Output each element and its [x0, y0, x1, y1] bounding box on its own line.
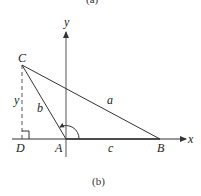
side-b-label: b	[37, 101, 43, 115]
diagram-svg: (a) y x C y b a D A c B (b)	[0, 0, 201, 196]
point-d-label: D	[15, 141, 25, 155]
y-axis-label: y	[63, 15, 70, 29]
point-a-label: A	[54, 141, 63, 155]
point-c-label: C	[18, 51, 27, 65]
side-b	[22, 65, 66, 139]
top-caption: (a)	[86, 0, 99, 6]
angle-arc	[60, 126, 79, 139]
x-axis-label: x	[187, 132, 194, 146]
triangle-diagram: (a) y x C y b a D A c B (b)	[0, 0, 201, 196]
side-c-label: c	[108, 141, 114, 155]
figure-caption: (b)	[92, 175, 105, 188]
side-a-label: a	[107, 93, 113, 107]
height-label: y	[13, 93, 20, 107]
right-angle-marker	[22, 131, 29, 139]
point-b-label: B	[157, 141, 165, 155]
